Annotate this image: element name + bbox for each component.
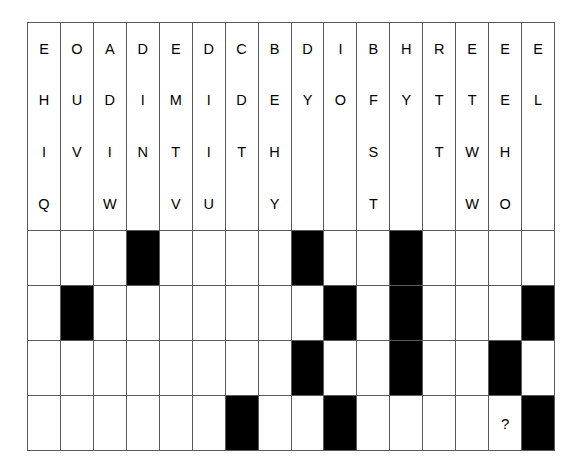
letter-cell: L [522,75,554,127]
letter-cell: I [324,23,356,75]
letter-column-8: BEHY [259,23,292,230]
letter-cell: U [61,75,93,127]
pattern-cell-empty [94,341,127,395]
pattern-cell-empty [127,396,160,450]
pattern-cell-filled [522,286,554,340]
letter-cell: Q [28,178,60,230]
pattern-cell-empty [28,231,61,285]
pattern-cell-empty [357,286,390,340]
letter-cell: I [193,127,225,179]
letter-cell: E [259,75,291,127]
pattern-cell-empty [226,341,259,395]
pattern-cell-empty [357,396,390,450]
pattern-row [28,231,554,286]
letter-cell: B [357,23,389,75]
puzzle-figure: EHIQOUVADIWDINEMTVDIIUCDTBEHYDYIOBFSTHYR… [27,22,555,451]
pattern-cell-filled [292,231,325,285]
letter-cell: V [61,127,93,179]
letter-cell [390,178,422,230]
pattern-cell-empty [61,341,94,395]
letter-cell: T [423,75,455,127]
letter-cell: C [226,23,258,75]
pattern-cell-empty [423,396,456,450]
pattern-cell-empty [259,396,292,450]
pattern-cell-empty [28,286,61,340]
letter-cell: O [61,23,93,75]
letter-cell: E [28,23,60,75]
pattern-cell-empty [160,341,193,395]
letter-cell: F [357,75,389,127]
pattern-cell-empty [522,341,554,395]
letter-cell [324,127,356,179]
letter-cell: H [390,23,422,75]
pattern-cell-empty [127,341,160,395]
letter-cell: E [160,23,192,75]
letter-column-3: ADIW [94,23,127,230]
pattern-cell-filled [390,231,423,285]
letter-column-4: DIN [127,23,160,230]
pattern-cell-filled [61,286,94,340]
pattern-cell-empty [193,341,226,395]
pattern-grid: ? [27,230,555,451]
pattern-cell-empty [160,286,193,340]
pattern-cell-empty [456,341,489,395]
pattern-cell-empty [292,286,325,340]
pattern-cell-empty [292,396,325,450]
letter-cell: I [28,127,60,179]
letter-cell [292,178,324,230]
letter-cell [423,178,455,230]
pattern-cell-filled [489,341,522,395]
pattern-cell-empty [456,231,489,285]
letter-column-16: EL [522,23,554,230]
letter-cell: D [94,75,126,127]
letter-cell: R [423,23,455,75]
pattern-cell-empty [423,341,456,395]
pattern-cell-filled [292,341,325,395]
letter-cell: W [456,127,488,179]
pattern-cell-empty [423,231,456,285]
pattern-cell-empty [357,231,390,285]
letter-cell [390,127,422,179]
letter-cell: E [456,23,488,75]
letter-cell: I [127,75,159,127]
letter-column-9: DY [292,23,325,230]
pattern-cell-empty [489,231,522,285]
pattern-cell-empty [522,231,554,285]
pattern-cell-empty [357,341,390,395]
letter-column-7: CDT [226,23,259,230]
pattern-cell-empty [390,396,423,450]
letter-column-6: DIIU [193,23,226,230]
pattern-cell-empty [226,231,259,285]
letter-cell: E [522,23,554,75]
pattern-cell-empty [324,231,357,285]
letter-cell: W [456,178,488,230]
letter-cell: I [193,75,225,127]
pattern-row [28,341,554,396]
letter-cell [61,178,93,230]
letter-column-13: RTT [423,23,456,230]
pattern-cell-empty [127,286,160,340]
pattern-cell-empty [193,396,226,450]
letter-cell: I [94,127,126,179]
letter-column-11: BFST [357,23,390,230]
pattern-cell-empty [226,286,259,340]
pattern-cell-empty [94,231,127,285]
pattern-cell-empty [28,396,61,450]
letter-cell: T [456,75,488,127]
letter-cell: S [357,127,389,179]
letter-cell: T [160,127,192,179]
pattern-cell-empty [259,341,292,395]
letter-column-10: IO [324,23,357,230]
letter-cell: U [193,178,225,230]
pattern-cell-empty [61,231,94,285]
letter-cell: V [160,178,192,230]
letter-column-1: EHIQ [28,23,61,230]
pattern-cell-empty [61,396,94,450]
letter-cell: Y [292,75,324,127]
pattern-cell-empty [193,231,226,285]
pattern-cell-filled [522,396,554,450]
question-mark: ? [501,416,509,431]
pattern-row [28,286,554,341]
pattern-cell-empty [94,286,127,340]
letter-column-12: HY [390,23,423,230]
